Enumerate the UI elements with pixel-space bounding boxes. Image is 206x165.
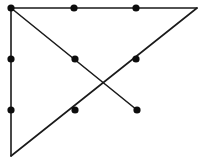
graph-node-left-lower xyxy=(7,106,14,113)
graph-diagram xyxy=(0,0,206,165)
graph-node-top-left xyxy=(7,4,14,11)
graph-node-center-lower xyxy=(71,106,78,113)
graph-node-center-upper xyxy=(71,55,78,62)
graph-node-right-upper xyxy=(132,55,139,62)
figure-container xyxy=(0,0,206,165)
graph-node-left-upper xyxy=(7,55,14,62)
graph-node-top-mid-right xyxy=(132,4,139,11)
graph-node-diagonal-end xyxy=(133,106,140,113)
graph-node-top-mid-left xyxy=(70,4,77,11)
edge-layer xyxy=(11,8,197,156)
